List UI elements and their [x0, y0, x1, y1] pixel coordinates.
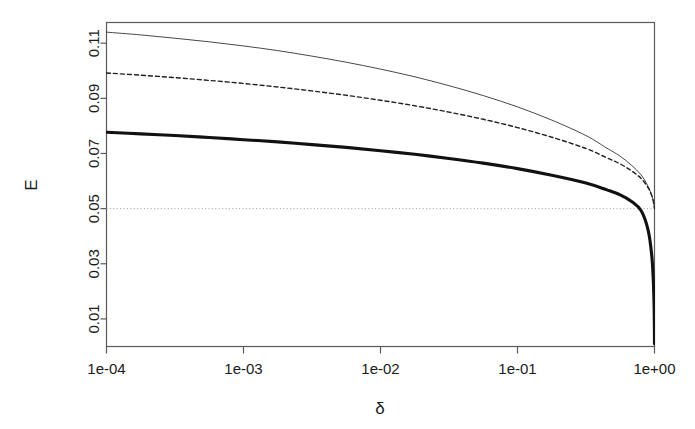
x-tick-label: 1e+00 — [633, 360, 675, 377]
y-tick-label: 0.01 — [85, 304, 102, 333]
x-tick-label: 1e-01 — [498, 360, 536, 377]
y-tick-label: 0.03 — [85, 249, 102, 278]
y-tick-label: 0.05 — [85, 194, 102, 223]
x-axis-title: δ — [375, 399, 384, 418]
y-axis-title: E — [22, 179, 41, 190]
y-tick-label: 0.11 — [85, 29, 102, 57]
y-tick-label: 0.07 — [85, 139, 102, 168]
y-tick-label: 0.09 — [85, 84, 102, 113]
figure-container: 0.010.030.050.070.090.11 1e-041e-031e-02… — [0, 0, 695, 429]
chart-canvas: 0.010.030.050.070.090.11 1e-041e-031e-02… — [0, 0, 695, 429]
x-tick-label: 1e-03 — [224, 360, 262, 377]
x-tick-label: 1e-04 — [87, 360, 125, 377]
x-tick-label: 1e-02 — [361, 360, 399, 377]
